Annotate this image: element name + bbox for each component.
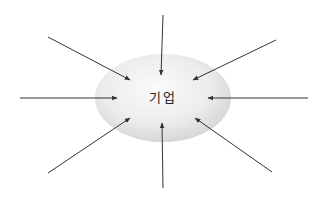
arrow-bottom-left-icon (48, 118, 130, 173)
center-label: 기업 (113, 88, 213, 108)
arrow-top-right-icon (193, 40, 276, 80)
arrow-bottom-right-icon (195, 118, 272, 172)
arrow-top-left-icon (48, 37, 130, 80)
